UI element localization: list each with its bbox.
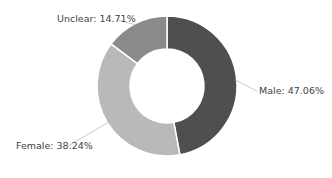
leader-male xyxy=(235,80,257,91)
slice-male xyxy=(167,16,237,155)
donut-chart: Male: 47.06% Female: 38.24% Unclear: 14.… xyxy=(0,0,332,178)
label-female: Female: 38.24% xyxy=(16,140,93,151)
donut-slices xyxy=(97,16,237,156)
label-male: Male: 47.06% xyxy=(259,85,324,96)
label-unclear: Unclear: 14.71% xyxy=(57,13,136,24)
